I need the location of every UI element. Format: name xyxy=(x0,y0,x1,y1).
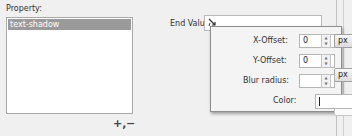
blur-radius-label: Blur radius: xyxy=(243,76,289,85)
y-offset-stepper[interactable]: ▲▼ xyxy=(321,54,331,68)
add-property-button[interactable]: +, xyxy=(113,119,126,129)
color-input[interactable] xyxy=(315,94,352,109)
x-offset-label: X-Offset: xyxy=(253,36,288,45)
remove-property-button[interactable]: − xyxy=(126,119,135,129)
text-shadow-popup: X-Offset: 0 ▲▼ px Y-Offset: 0 ▲▼ px Blur… xyxy=(210,26,342,112)
x-offset-stepper[interactable]: ▲▼ xyxy=(321,34,331,48)
blur-radius-stepper[interactable]: ▲▼ xyxy=(321,74,331,88)
y-offset-unit-select[interactable]: px xyxy=(334,68,352,82)
y-offset-unit-value: px xyxy=(338,70,348,79)
property-label: Property: xyxy=(6,4,42,13)
x-offset-unit-select[interactable]: px xyxy=(334,34,352,48)
text-caret xyxy=(319,97,320,106)
y-offset-label: Y-Offset: xyxy=(253,56,287,65)
property-list-item-text-shadow[interactable]: text-shadow xyxy=(8,19,131,30)
x-offset-unit-value: px xyxy=(338,36,348,45)
property-listbox[interactable]: text-shadow xyxy=(6,17,133,114)
color-label: Color: xyxy=(273,96,296,105)
